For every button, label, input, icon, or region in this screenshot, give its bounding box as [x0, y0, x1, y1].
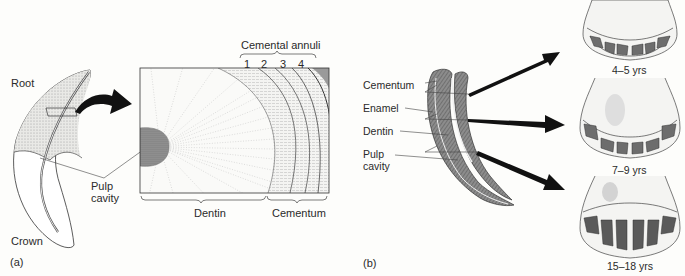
cemental-annuli-label: Cemental annuli [241, 39, 321, 51]
cross-section-panel [140, 60, 333, 200]
annulus-2-label: 2 [261, 58, 267, 70]
arrow-to-4-5-yrs-icon [468, 52, 560, 97]
age-label-7-9: 7–9 yrs [612, 164, 646, 176]
pulp-cavity-label-line2: cavity [91, 192, 119, 204]
dentin-label: Dentin [194, 207, 226, 219]
jaw-4-5-yrs [583, 0, 677, 60]
arrow-to-7-9-yrs-icon [468, 115, 565, 133]
canine-tooth-drawing [14, 70, 91, 248]
root-label: Root [11, 77, 34, 89]
b-pulp-label-line1: Pulp [363, 148, 384, 160]
annulus-3-label: 3 [280, 58, 286, 70]
incisor-tooth-drawing [428, 69, 514, 205]
crown-label: Crown [11, 235, 43, 247]
b-enamel-label: Enamel [363, 102, 399, 114]
pulp-cavity-label-line1: Pulp [91, 180, 113, 192]
jaw-7-9-yrs [580, 78, 680, 158]
b-cementum-label: Cementum [363, 79, 414, 91]
annulus-4-label: 4 [298, 58, 304, 70]
age-label-4-5: 4–5 yrs [612, 64, 646, 76]
diagram-canvas [0, 0, 685, 276]
panel-b-label: (b) [363, 257, 376, 269]
cementum-label: Cementum [272, 207, 326, 219]
b-dentin-label: Dentin [363, 125, 393, 137]
jaw-15-18-yrs [580, 176, 680, 258]
b-pulp-label-line2: cavity [363, 160, 390, 172]
annulus-1-label: 1 [244, 58, 250, 70]
age-label-15-18: 15–18 yrs [607, 260, 653, 272]
panel-a-label: (a) [10, 256, 23, 268]
